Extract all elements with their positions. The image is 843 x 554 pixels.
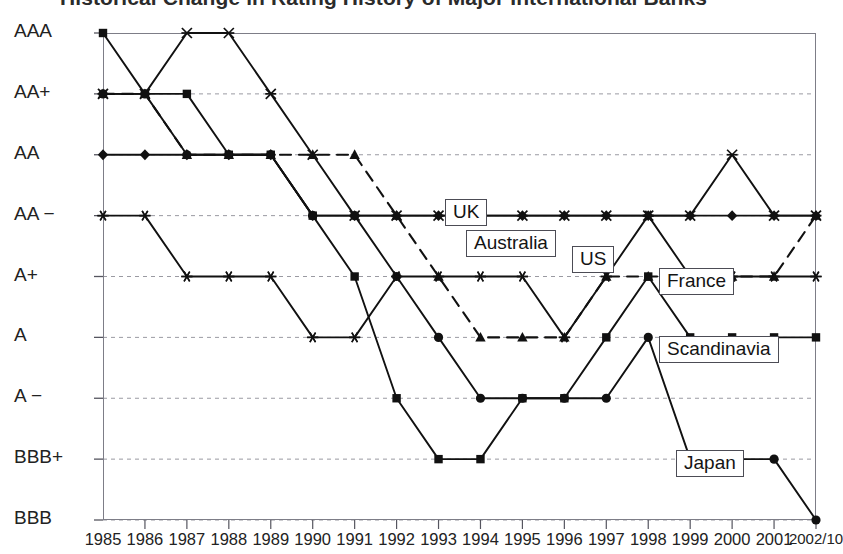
x-axis-tick-label: 1987 (169, 530, 206, 549)
series-marker-japan (560, 394, 569, 403)
x-axis-tick-label: 1991 (336, 530, 373, 549)
y-axis-tick-label: AA (14, 142, 100, 164)
callout-australia: Australia (466, 230, 556, 257)
x-axis-tick-label: 2000 (714, 530, 751, 549)
series-marker-scandinavia (99, 29, 107, 37)
callout-us: US (572, 246, 614, 273)
series-marker-france (139, 211, 150, 221)
x-axis-tick-label: 2001 (756, 530, 793, 549)
x-axis-tick-label: 1999 (672, 530, 709, 549)
series-marker-scandinavia (476, 455, 484, 463)
series-marker-japan (769, 455, 778, 464)
y-axis-tick-label: AA+ (14, 81, 100, 103)
x-axis-tick-label: 1990 (294, 530, 331, 549)
series-marker-japan (434, 333, 443, 342)
series-marker-france (181, 272, 192, 282)
series-marker-scandinavia (812, 333, 820, 341)
series-marker-japan (644, 333, 653, 342)
series-marker-scandinavia (602, 333, 610, 341)
x-axis-tick-label: 1997 (588, 530, 625, 549)
x-axis-tick-label: 1985 (85, 530, 122, 549)
x-axis-tick-label: 1998 (630, 530, 667, 549)
series-marker-japan (811, 515, 820, 524)
x-axis-tick-label: 1996 (546, 530, 583, 549)
x-axis-tick-label: 1989 (252, 530, 289, 549)
series-marker-france (517, 272, 528, 282)
series-marker-japan (476, 394, 485, 403)
y-axis-tick-label: A − (14, 385, 100, 407)
series-marker-france (810, 272, 821, 282)
callout-japan: Japan (676, 450, 744, 477)
x-axis-tick-label: 2002/10 (789, 530, 843, 547)
y-axis-tick-label: AA − (14, 203, 100, 225)
callout-scandinavia: Scandinavia (659, 336, 779, 363)
x-axis-tick-label: 1986 (127, 530, 164, 549)
series-marker-uk (727, 150, 738, 160)
series-marker-japan (140, 89, 149, 98)
series-marker-australia (727, 210, 737, 221)
series-marker-australia (140, 149, 150, 160)
series-marker-scandinavia (183, 90, 191, 98)
series-marker-scandinavia (350, 272, 358, 280)
series-line-uk (103, 33, 816, 216)
series-marker-uk (223, 28, 234, 38)
callout-france: France (659, 268, 734, 295)
series-marker-france (475, 272, 486, 282)
y-axis-tick-label: AAA (14, 20, 100, 42)
x-axis-tick-label: 1992 (378, 530, 415, 549)
x-axis-tick-label: 1995 (504, 530, 541, 549)
x-axis-tick-label: 1994 (462, 530, 499, 549)
series-marker-scandinavia (392, 394, 400, 402)
x-axis-tick-label: 1993 (420, 530, 457, 549)
series-marker-scandinavia (434, 455, 442, 463)
y-axis-tick-label: BBB+ (14, 446, 100, 468)
series-marker-france (349, 333, 360, 343)
series-marker-japan (602, 394, 611, 403)
series-marker-france (223, 272, 234, 282)
series-marker-france (307, 333, 318, 343)
series-marker-uk (181, 28, 192, 38)
series-marker-uk (265, 89, 276, 99)
series-marker-japan (518, 394, 527, 403)
series-marker-france (265, 272, 276, 282)
series-marker-us (349, 149, 359, 159)
y-axis-tick-label: A+ (14, 264, 100, 286)
series-line-scandinavia (103, 33, 816, 459)
y-axis-tick-label: A (14, 324, 100, 346)
x-axis-tick-label: 1988 (210, 530, 247, 549)
y-axis-tick-label: BBB (14, 507, 100, 529)
callout-uk: UK (445, 199, 487, 226)
